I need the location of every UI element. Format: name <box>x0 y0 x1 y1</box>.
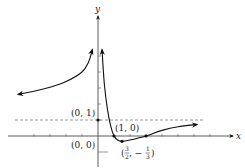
min-label-num2: 1 <box>146 145 150 152</box>
marked-point <box>120 140 123 143</box>
curve-left-branch <box>18 50 92 95</box>
y-axis-label: y <box>94 4 101 14</box>
min-point-label: ( 3 2 , − 1 3 ) <box>121 145 155 160</box>
axes <box>8 16 233 167</box>
point-label-0-1: (0, 1) <box>71 108 95 118</box>
min-label-sep: , − <box>129 148 142 158</box>
curves <box>18 50 197 142</box>
marked-point <box>96 118 99 121</box>
marked-point <box>112 134 115 137</box>
min-label-open-paren: ( <box>121 148 125 158</box>
min-label-close-paren: ) <box>151 148 155 158</box>
ticks <box>34 56 210 152</box>
point-label-1-0: (1, 0) <box>115 123 139 133</box>
x-axis-label: x <box>236 131 241 141</box>
labels: y x (0, 1) (1, 0) (0, 0) ( 3 2 , − 1 3 ) <box>71 4 241 160</box>
origin-label: (0, 0) <box>71 140 95 150</box>
function-graph: y x (0, 1) (1, 0) (0, 0) ( 3 2 , − 1 3 ) <box>0 0 245 168</box>
min-label-den2: 3 <box>146 153 150 160</box>
marked-point <box>144 134 147 137</box>
